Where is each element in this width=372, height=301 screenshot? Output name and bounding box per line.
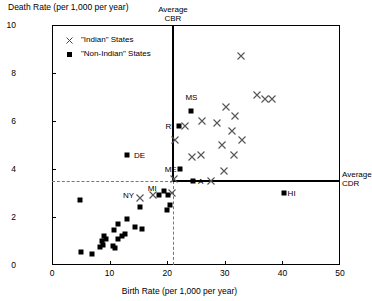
point-label: NY bbox=[123, 191, 134, 200]
point-label: HI bbox=[288, 189, 296, 198]
x-tick-mark bbox=[282, 261, 283, 265]
x-tick-label: 30 bbox=[213, 268, 237, 278]
data-point-non-indian bbox=[178, 167, 183, 172]
data-point-non-indian bbox=[113, 246, 118, 251]
data-point-non-indian bbox=[78, 249, 83, 254]
x-tick-mark bbox=[110, 261, 111, 265]
y-axis-label: Death Rate (per 1,000 per year) bbox=[8, 2, 128, 12]
data-point-indian bbox=[236, 52, 245, 61]
y-tick-mark bbox=[52, 73, 56, 74]
legend-label-non-indian: "Non-Indian" States bbox=[81, 47, 151, 61]
x-tick-mark bbox=[167, 261, 168, 265]
data-point-indian bbox=[206, 177, 215, 186]
data-point-indian bbox=[220, 167, 229, 176]
data-point-non-indian bbox=[191, 179, 196, 184]
y-tick-label: 6 bbox=[0, 116, 16, 126]
data-point-indian bbox=[231, 112, 240, 121]
data-point-indian bbox=[181, 121, 190, 130]
data-point-non-indian bbox=[112, 228, 117, 233]
data-point-non-indian bbox=[157, 193, 162, 198]
legend-label-indian: "Indian" States bbox=[81, 33, 133, 47]
average-cbr-annotation: AverageCBR bbox=[143, 5, 203, 23]
data-point-indian bbox=[221, 102, 230, 111]
y-tick-label: 8 bbox=[0, 68, 16, 78]
data-point-non-indian bbox=[281, 191, 286, 196]
data-point-indian bbox=[135, 193, 144, 202]
x-tick-label: 40 bbox=[270, 268, 294, 278]
data-point-indian bbox=[197, 117, 206, 126]
x-tick-label: 20 bbox=[155, 268, 179, 278]
average-cdr-annotation: AverageCDR bbox=[342, 170, 372, 188]
data-point-indian bbox=[268, 95, 277, 104]
data-point-non-indian bbox=[177, 123, 182, 128]
data-point-non-indian bbox=[166, 193, 171, 198]
x-tick-mark bbox=[225, 261, 226, 265]
point-label: DE bbox=[134, 150, 145, 159]
y-tick-label: 10 bbox=[0, 20, 16, 30]
x-tick-label: 10 bbox=[98, 268, 122, 278]
data-point-non-indian bbox=[90, 252, 95, 257]
point-label: RI bbox=[166, 121, 174, 130]
data-point-non-indian bbox=[119, 234, 124, 239]
x-axis-label: Birth Rate (per 1,000 per year) bbox=[0, 286, 359, 296]
data-point-indian bbox=[238, 136, 247, 145]
average-cbr-line bbox=[172, 25, 174, 181]
x-marker-icon bbox=[62, 37, 76, 44]
data-point-non-indian bbox=[164, 207, 169, 212]
data-point-non-indian bbox=[124, 217, 129, 222]
x-tick-label: 50 bbox=[328, 268, 352, 278]
point-label: ME bbox=[165, 165, 177, 174]
y-tick-label: 2 bbox=[0, 212, 16, 222]
data-point-indian bbox=[212, 119, 221, 128]
data-point-indian bbox=[217, 141, 226, 150]
data-point-non-indian bbox=[137, 205, 142, 210]
data-point-non-indian bbox=[139, 227, 144, 232]
data-point-indian bbox=[171, 136, 180, 145]
y-tick-label: 0 bbox=[0, 260, 16, 270]
data-point-indian bbox=[170, 174, 179, 183]
y-tick-mark bbox=[52, 121, 56, 122]
data-point-non-indian bbox=[132, 224, 137, 229]
legend: "Indian" States "Non-Indian" States bbox=[62, 33, 151, 61]
point-label: MI bbox=[148, 184, 157, 193]
data-point-non-indian bbox=[78, 198, 83, 203]
y-tick-label: 4 bbox=[0, 164, 16, 174]
legend-item-non-indian: "Non-Indian" States bbox=[62, 47, 151, 61]
data-point-indian bbox=[227, 126, 236, 135]
legend-item-indian: "Indian" States bbox=[62, 33, 151, 47]
y-tick-mark bbox=[52, 217, 56, 218]
plot-area bbox=[52, 25, 340, 265]
average-cdr-line-dashed bbox=[52, 181, 173, 182]
point-label: MS bbox=[185, 93, 197, 102]
y-tick-mark bbox=[52, 169, 56, 170]
point-label: A bbox=[198, 177, 203, 186]
data-point-non-indian bbox=[116, 222, 121, 227]
data-point-non-indian bbox=[189, 109, 194, 114]
square-marker-icon bbox=[62, 52, 76, 57]
data-point-indian bbox=[187, 153, 196, 162]
x-tick-label: 0 bbox=[40, 268, 64, 278]
data-point-non-indian bbox=[97, 245, 102, 250]
data-point-indian bbox=[197, 150, 206, 159]
data-point-indian bbox=[230, 150, 239, 159]
data-point-non-indian bbox=[124, 152, 129, 157]
